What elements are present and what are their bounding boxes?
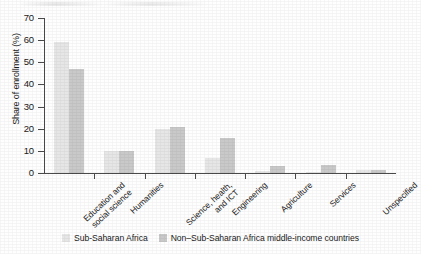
legend-item: Sub-Saharan Africa — [62, 233, 148, 243]
x-axis-label: Education and social science — [81, 180, 133, 231]
legend-swatch-icon — [62, 234, 70, 242]
chart-legend: Sub-Saharan AfricaNon–Sub-Saharan Africa… — [0, 233, 421, 243]
legend-label: Sub-Saharan Africa — [74, 233, 148, 243]
chart-figure: Share of enrollment (%) 010203040506070 … — [0, 0, 421, 254]
legend-swatch-icon — [159, 234, 167, 242]
x-axis-label: Services — [327, 180, 357, 209]
x-axis-label: Humanities — [129, 180, 166, 216]
x-axis-labels: Education and social scienceHumanitiesSc… — [0, 0, 421, 254]
legend-item: Non–Sub-Saharan Africa middle-income cou… — [159, 233, 359, 243]
legend-label: Non–Sub-Saharan Africa middle-income cou… — [171, 233, 359, 243]
x-axis-label: Unspecified — [380, 180, 419, 217]
x-axis-label: Agriculture — [279, 180, 315, 214]
